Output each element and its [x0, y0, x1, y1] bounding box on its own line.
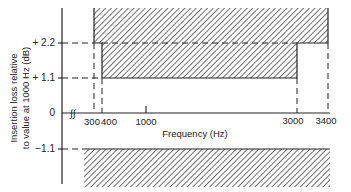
x-tick-400: 400	[101, 116, 117, 127]
y-tick-2.2: + 2.2	[32, 37, 55, 48]
y-tick-neg1.1: −1.1	[35, 143, 55, 154]
x-tick-300: 300	[84, 116, 100, 127]
x-tick-1000: 1000	[135, 116, 156, 127]
insertion-loss-mask-diagram: ∫∫ + 2.2 + 1.1 0 −1.1 300 400 1000 3000 …	[0, 0, 351, 192]
y-axis-label-line2: to value at 1000 Hz (dB)	[20, 47, 31, 149]
y-tick-0: 0	[49, 107, 55, 118]
diagram-canvas: ∫∫ + 2.2 + 1.1 0 −1.1 300 400 1000 3000 …	[0, 0, 351, 192]
lower-mask-hatch	[84, 149, 330, 187]
y-tick-1.1: + 1.1	[32, 72, 55, 83]
y-axis-label-line1: Insertion loss relative	[8, 53, 19, 142]
x-tick-3000: 3000	[282, 115, 303, 126]
x-tick-3400: 3400	[315, 115, 336, 126]
x-axis-label: Frequency (Hz)	[162, 128, 227, 139]
